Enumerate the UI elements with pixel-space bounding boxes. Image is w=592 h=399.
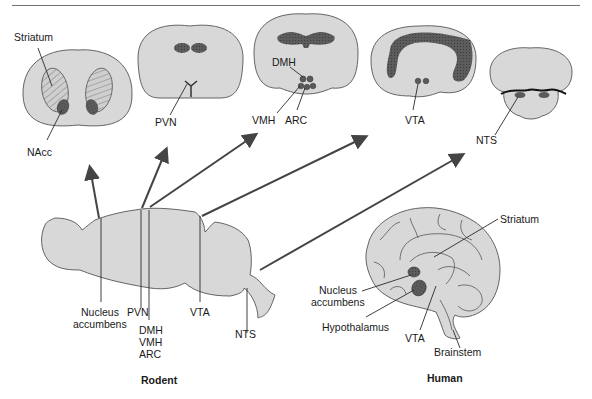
nts-section: NTS bbox=[476, 48, 572, 146]
striatum-section: Striatum NAcc bbox=[14, 31, 132, 158]
human-caption: Human bbox=[427, 372, 463, 384]
arc-label: ARC bbox=[285, 114, 308, 126]
nacc-label: NAcc bbox=[27, 146, 52, 158]
human-brain: Striatum Nucleus accumbens Hypothalamus … bbox=[311, 208, 539, 384]
rodent-arc-label: ARC bbox=[139, 348, 162, 360]
rodent-pvn-label: PVN bbox=[127, 306, 149, 318]
vmh-label: VMH bbox=[252, 114, 275, 126]
human-nucleus-label-2: accumbens bbox=[311, 296, 365, 308]
human-brainstem-label: Brainstem bbox=[434, 346, 482, 358]
rodent-nucleus-label-1: Nucleus bbox=[81, 306, 119, 318]
vta-section: VTA bbox=[371, 26, 476, 126]
pvn-label: PVN bbox=[155, 116, 177, 128]
rodent-vta-label: VTA bbox=[190, 306, 210, 318]
human-nucleus-label-1: Nucleus bbox=[319, 284, 357, 296]
human-vta-label: VTA bbox=[405, 332, 425, 344]
human-striatum-label: Striatum bbox=[500, 213, 539, 225]
brain-regions-figure: Striatum NAcc PVN DMH VMH ARC VTA bbox=[0, 0, 592, 399]
vta-label: VTA bbox=[405, 114, 425, 126]
rodent-dmh-label: DMH bbox=[139, 324, 163, 336]
rodent-vmh-label: VMH bbox=[139, 336, 162, 348]
rodent-nts-label: NTS bbox=[235, 328, 256, 340]
hypothalamus-section: DMH VMH ARC bbox=[252, 14, 358, 126]
striatum-label: Striatum bbox=[14, 31, 53, 43]
rodent-brain: Nucleus accumbens PVN DMH VMH ARC VTA NT… bbox=[42, 208, 275, 386]
human-hypothalamus-label: Hypothalamus bbox=[322, 321, 389, 333]
rodent-caption: Rodent bbox=[141, 374, 178, 386]
dmh-label: DMH bbox=[272, 56, 296, 68]
nts-label: NTS bbox=[476, 134, 497, 146]
rodent-nucleus-label-2: accumbens bbox=[73, 318, 127, 330]
pvn-section: PVN bbox=[138, 25, 243, 128]
